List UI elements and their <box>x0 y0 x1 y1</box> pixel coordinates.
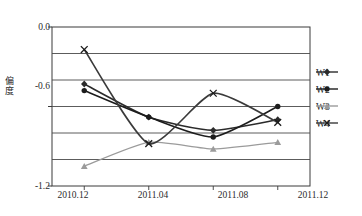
series-line-W3 <box>84 142 278 166</box>
datapoint-W2-0 <box>82 88 87 93</box>
series-W3 <box>81 139 281 169</box>
legend-marker-w2 <box>316 83 338 95</box>
marker-circle <box>82 88 87 93</box>
marker-diamond <box>81 81 87 88</box>
marker-triangle <box>81 163 88 169</box>
legend-item-w3[interactable]: W3 <box>316 100 330 114</box>
datapoint-W2-1 <box>146 114 151 119</box>
legend-item-w2[interactable]: W2 <box>316 83 330 97</box>
marker-circle <box>146 114 151 119</box>
datapoint-W2-2 <box>211 134 216 139</box>
datapoint-W3-0 <box>81 163 88 169</box>
legend-item-w1[interactable]: W1 <box>316 66 330 80</box>
legend-marker-w1 <box>316 66 338 78</box>
datapoint-W2-3 <box>275 104 280 109</box>
marker-circle <box>275 104 280 109</box>
chart-container: 偏度 0.0 -0.6 -1.2 2010.12 2011.04 2011.08… <box>0 0 362 216</box>
plot-area <box>0 0 362 216</box>
datapoint-W1-0 <box>81 81 87 88</box>
marker-circle <box>211 134 216 139</box>
legend-marker-w3 <box>316 100 338 112</box>
datapoint-W4-0 <box>81 46 88 53</box>
legend-marker-w4 <box>316 117 338 129</box>
legend-item-w4[interactable]: W4 <box>316 117 330 131</box>
series-W4 <box>81 46 281 147</box>
marker-cross <box>81 46 88 53</box>
